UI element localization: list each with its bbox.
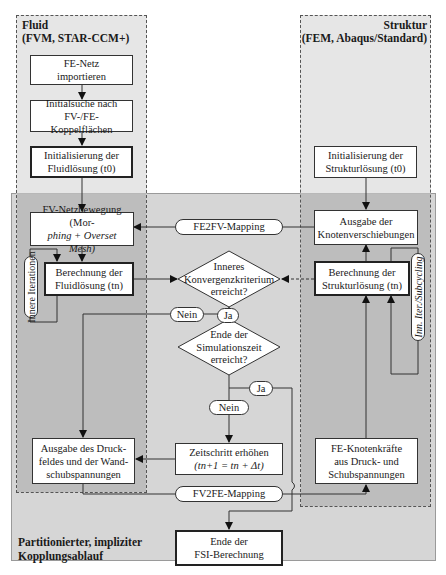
no-label-convergence: Nein — [170, 307, 204, 322]
init-structure-box: Initialisierung derStrukturlösung (t0) — [314, 146, 417, 178]
end-time-decision: Ende der Simulationszeit erreicht? — [180, 329, 278, 367]
time-step-box: Zeitschritt erhöhen(tn+1 = tn + Δt) — [175, 443, 283, 475]
convergence-decision: Inneres Konvergenzkriterium erreicht? — [180, 261, 278, 299]
fe2fv-mapping-pill: FE2FV-Mapping — [175, 219, 283, 235]
yes-label-end-time: Ja — [249, 381, 273, 396]
initial-search-box: Initialsuche nachFV-/FE-Koppelflächen — [30, 100, 133, 132]
end-fsi-box: Ende derFSI-Berechnung — [175, 530, 283, 566]
inner-iterations-label: Innere Iterationen — [24, 256, 38, 318]
no-label-end-time: Nein — [209, 400, 249, 415]
nodal-forces-box: FE-Knotenkräfteaus Druck- undSchubspannu… — [315, 438, 418, 484]
subcycling-label: Inn. Iter./Subcycling — [411, 253, 425, 341]
import-mesh-box: FE-Netzimportieren — [30, 55, 133, 85]
fv2fe-mapping-pill: FV2FE-Mapping — [175, 486, 283, 502]
compute-structure-box: Berechnung derStrukturlösung (tn) — [314, 261, 410, 296]
mesh-motion-box: FV-Netzbewegung (Mor-phing + Overset Mes… — [30, 212, 134, 246]
output-pressure-box: Ausgabe des Druck-feldes und der Wand-sc… — [32, 438, 135, 484]
compute-fluid-box: Berechnung derFluidlösung (tn) — [44, 262, 134, 296]
init-fluid-box: Initialisierung derFluidlösung (t0) — [30, 146, 133, 178]
yes-label-convergence: Ja — [217, 308, 239, 323]
output-displacements-box: Ausgabe derKnotenverschiebungen — [314, 210, 418, 245]
